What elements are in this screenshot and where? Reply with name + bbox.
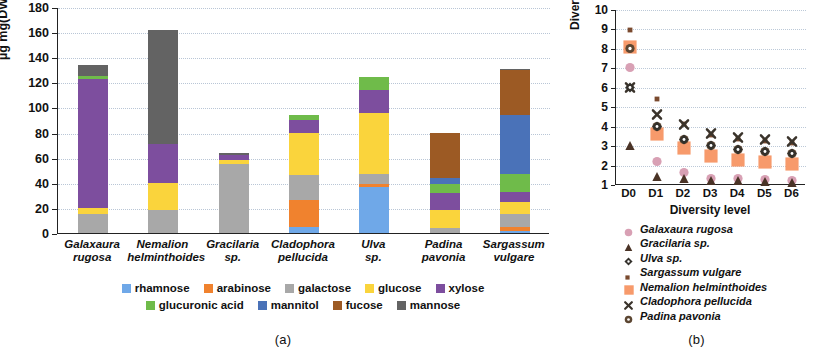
a-bar-segment[interactable]	[500, 192, 530, 202]
a-bar-column[interactable]	[500, 69, 530, 233]
a-bar-column[interactable]	[78, 65, 108, 233]
a-legend-item[interactable]: fucose	[333, 299, 383, 311]
b-data-point[interactable]	[626, 20, 634, 38]
a-bar-segment[interactable]	[430, 184, 460, 193]
a-bar-segment[interactable]	[500, 70, 530, 115]
b-legend-item[interactable]: Sargassum vulgare	[624, 266, 824, 279]
b-data-point[interactable]	[651, 168, 662, 186]
a-bar-segment[interactable]	[148, 183, 178, 211]
a-legend-swatch	[397, 301, 406, 310]
a-legend-item[interactable]: rhamnose	[122, 282, 190, 294]
a-bar-segment[interactable]	[359, 77, 389, 90]
b-legend-item[interactable]: Galaxaura rugosa	[624, 222, 824, 235]
a-legend-item[interactable]: glucuronic acid	[146, 299, 244, 311]
a-bar-column[interactable]	[219, 153, 249, 233]
a-bar-segment[interactable]	[289, 200, 319, 226]
diamond-marker-icon	[651, 118, 662, 129]
a-legend-label: arabinose	[217, 282, 271, 294]
b-data-point[interactable]	[678, 170, 689, 188]
b-y-tick-label: 9	[601, 22, 608, 36]
b-data-point[interactable]	[624, 59, 635, 77]
a-bar-segment[interactable]	[500, 202, 530, 215]
a-legend-label: mannitol	[271, 299, 319, 311]
a-bar-segment[interactable]	[148, 30, 178, 144]
a-legend-label: mannose	[410, 299, 461, 311]
b-data-point[interactable]	[624, 137, 635, 155]
a-legend-swatch	[333, 301, 342, 310]
b-data-point[interactable]	[651, 118, 662, 136]
a-bar-segment[interactable]	[148, 210, 178, 233]
x-bold-marker-icon	[733, 129, 744, 140]
square-large-marker-icon	[624, 281, 634, 291]
a-legend-swatch	[365, 284, 374, 293]
a-bar-segment[interactable]	[359, 90, 389, 113]
a-bar-segment[interactable]	[289, 120, 319, 133]
a-bar-segment[interactable]	[148, 144, 178, 183]
a-bar-segment[interactable]	[359, 187, 389, 233]
b-data-point[interactable]	[624, 79, 635, 97]
a-bar-segment[interactable]	[430, 193, 460, 211]
b-legend-item[interactable]: Cladophora pellucida	[624, 295, 824, 308]
a-legend-item[interactable]: mannitol	[258, 299, 319, 311]
a-legend-swatch	[146, 301, 155, 310]
a-bar-segment[interactable]	[78, 214, 108, 233]
a-bar-segment[interactable]	[78, 79, 108, 208]
a-x-tick-label-line1: Padina	[408, 238, 478, 251]
b-data-point[interactable]	[624, 40, 635, 58]
a-legend-label: galactose	[298, 282, 351, 294]
b-y-tick-label: 8	[601, 42, 608, 56]
a-legend-item[interactable]: galactose	[285, 282, 351, 294]
b-legend-item[interactable]: Padina pavonia	[624, 309, 824, 322]
b-data-point[interactable]	[653, 89, 661, 107]
x-bold-marker-icon	[624, 296, 633, 305]
a-bar-column[interactable]	[430, 133, 460, 233]
x-bold-marker-icon	[651, 106, 662, 117]
a-bar-segment[interactable]	[219, 164, 249, 233]
triangle-marker-icon	[706, 172, 717, 183]
a-legend-item[interactable]: glucose	[365, 282, 421, 294]
diamond-marker-icon	[733, 141, 744, 152]
a-bar-segment[interactable]	[359, 113, 389, 175]
a-bar-column[interactable]	[148, 30, 178, 233]
diamond-marker-icon	[624, 252, 633, 261]
b-y-tick-label: 2	[601, 159, 608, 173]
b-data-point[interactable]	[733, 141, 744, 159]
a-bar-segment[interactable]	[500, 231, 530, 234]
a-x-tick-label: Padinapavonia	[408, 238, 478, 264]
b-data-point[interactable]	[760, 143, 771, 161]
b-data-point[interactable]	[678, 131, 689, 149]
a-legend-item[interactable]: xylose	[436, 282, 485, 294]
x-bold-marker-icon	[760, 131, 771, 142]
panel-a-stacked-bar-chart: 020406080100120140160180 µg mg(DW)-1 Gal…	[0, 0, 566, 357]
b-y-tick-label: 6	[601, 81, 608, 95]
b-legend-item[interactable]: Nemalion helminthoides	[624, 280, 824, 293]
a-legend-item[interactable]: arabinose	[204, 282, 271, 294]
triangle-marker-icon	[624, 137, 635, 148]
a-x-tick-label: Nemalionhelminthoides	[127, 238, 197, 264]
a-legend-label: glucuronic acid	[159, 299, 244, 311]
panel-b-caption: (b)	[566, 332, 827, 347]
a-bar-segment[interactable]	[430, 210, 460, 228]
b-data-point[interactable]	[706, 137, 717, 155]
a-bar-segment[interactable]	[289, 227, 319, 233]
a-bar-segment[interactable]	[500, 174, 530, 192]
b-y-tick-label: 1	[601, 178, 608, 192]
a-bar-segment[interactable]	[500, 214, 530, 227]
a-bar-segment[interactable]	[289, 175, 319, 200]
a-bar-segment[interactable]	[359, 174, 389, 184]
b-legend-marker	[624, 296, 635, 307]
a-x-axis-labels: GalaxaurarugosaNemalionhelminthoidesGrac…	[57, 238, 549, 280]
a-bar-column[interactable]	[359, 77, 389, 233]
a-bar-segment[interactable]	[289, 133, 319, 176]
a-legend-item[interactable]: mannose	[397, 299, 461, 311]
a-bar-segment[interactable]	[430, 133, 460, 178]
a-legend-swatch	[285, 284, 294, 293]
a-bar-segment[interactable]	[500, 115, 530, 174]
b-data-point[interactable]	[787, 145, 798, 163]
a-bar-column[interactable]	[289, 115, 319, 233]
a-bar-segment[interactable]	[430, 228, 460, 233]
b-legend-item[interactable]: Gracilaria sp.	[624, 237, 824, 250]
a-bar-segment[interactable]	[78, 65, 108, 76]
a-legend-row-2: glucuronic acidmannitolfucosemannose	[146, 299, 461, 311]
b-legend-item[interactable]: Ulva sp.	[624, 251, 824, 264]
